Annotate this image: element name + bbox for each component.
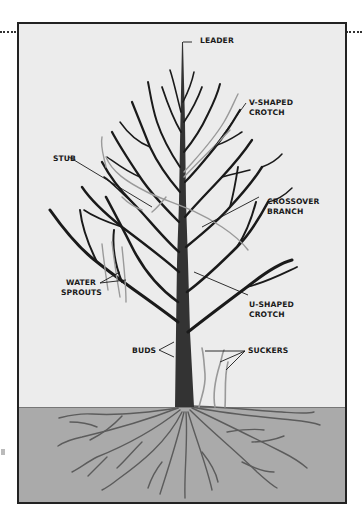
- problem-branches: [101, 94, 248, 302]
- margin-mark: [1, 449, 5, 455]
- label-leader: LEADER: [200, 36, 234, 45]
- label-v-shaped-crotch-line1: V-SHAPED: [249, 98, 293, 107]
- label-water-sprouts-line1: WATER: [66, 278, 96, 287]
- label-crossover-branch-line1: CROSSOVER: [267, 197, 320, 206]
- dotted-leader-left: [0, 31, 16, 36]
- tree-illustration: [19, 24, 345, 502]
- label-stub: STUB: [53, 154, 76, 163]
- label-buds: BUDS: [132, 346, 156, 355]
- label-u-shaped-crotch-line2: CROTCH: [249, 310, 285, 319]
- label-crossover-branch-line2: BRANCH: [267, 207, 303, 216]
- label-water-sprouts-line2: SPROUTS: [61, 288, 102, 297]
- label-v-shaped-crotch-line2: CROTCH: [249, 108, 285, 117]
- label-u-shaped-crotch-line1: U-SHAPED: [249, 300, 294, 309]
- suckers-shoots: [199, 348, 228, 407]
- label-suckers: SUCKERS: [248, 346, 288, 355]
- diagram-frame: LEADER V-SHAPED CROTCH STUB CROSSOVER BR…: [17, 22, 347, 504]
- dotted-leader-right: [346, 31, 362, 36]
- roots: [58, 406, 320, 498]
